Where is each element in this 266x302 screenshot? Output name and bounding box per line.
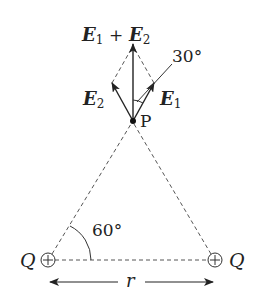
label-point-P: P xyxy=(140,113,151,130)
angle-arc-60 xyxy=(70,226,91,260)
label-sum-sub2: 2 xyxy=(143,33,151,47)
charge-left xyxy=(41,253,55,267)
label-E2: E2 xyxy=(83,90,104,110)
point-P xyxy=(130,118,136,124)
label-sum-E2: E xyxy=(129,24,143,45)
label-distance-r: r xyxy=(126,272,135,290)
label-E1-sub: 1 xyxy=(174,97,182,111)
label-E1-letter: E xyxy=(160,88,174,109)
label-angle-30: 30° xyxy=(172,48,202,65)
label-sum-vector: E1 + E2 xyxy=(82,26,150,46)
label-charge-left: Q xyxy=(20,251,36,270)
label-plus: + xyxy=(109,25,123,45)
label-charge-right: Q xyxy=(229,251,245,270)
vector-E2 xyxy=(112,83,133,121)
label-E1: E1 xyxy=(160,90,181,110)
label-sum-E1: E xyxy=(82,24,96,45)
charge-right xyxy=(208,253,222,267)
label-E2-letter: E xyxy=(83,88,97,109)
triangle-dashed-lines xyxy=(52,124,211,260)
label-angle-60: 60° xyxy=(92,222,122,239)
electric-field-diagram: E1 + E2 30° E2 E1 P 60° Q Q r xyxy=(0,0,266,302)
field-vectors xyxy=(112,44,154,121)
label-sum-sub1: 1 xyxy=(96,33,104,47)
label-E2-sub: 2 xyxy=(97,97,105,111)
